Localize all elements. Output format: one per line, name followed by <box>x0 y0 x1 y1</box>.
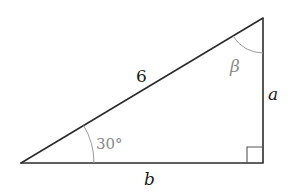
angle-arc-30 <box>84 125 94 163</box>
side-a-label: a <box>268 84 278 104</box>
side-b-label: b <box>144 169 155 189</box>
right-triangle-diagram: 6 a b 30° β <box>0 0 299 194</box>
hypotenuse-label: 6 <box>136 66 147 86</box>
angle-arc-beta <box>233 36 263 53</box>
angle-beta-label: β <box>229 56 240 76</box>
hypotenuse-line <box>21 18 263 163</box>
angle-30-label: 30° <box>96 135 123 153</box>
right-angle-marker <box>247 147 263 163</box>
